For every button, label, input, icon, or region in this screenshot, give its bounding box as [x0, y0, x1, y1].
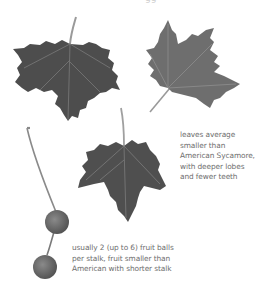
caption-line: usually 2 (up to 6) fruit balls: [72, 243, 174, 254]
caption-line: American with shorter stalk: [72, 264, 174, 275]
caption-line: American Sycamore,: [180, 151, 255, 162]
caption-line: leaves average: [180, 130, 255, 141]
caption-line: smaller than: [180, 141, 255, 152]
leaf-icon-top-right: [146, 20, 240, 112]
fruit-caption: usually 2 (up to 6) fruit balls per stal…: [72, 243, 174, 275]
fruit-balls-icon: [27, 128, 69, 279]
caption-line: and fewer teeth: [180, 172, 255, 183]
leaf-icon-top-left: [13, 17, 120, 121]
leaves-caption: leaves average smaller than American Syc…: [180, 130, 255, 183]
leaf-icon-middle: [78, 108, 166, 222]
caption-line: per stalk, fruit smaller than: [72, 254, 174, 265]
caption-line: with deeper lobes: [180, 162, 255, 173]
